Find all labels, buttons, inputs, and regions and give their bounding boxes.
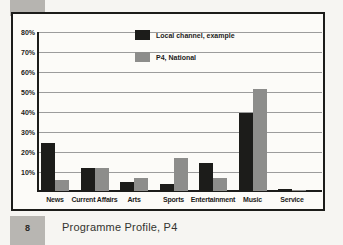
gridline-60 — [38, 72, 322, 73]
y-axis-tick-label: 30% — [13, 128, 35, 137]
bar-local — [199, 163, 213, 191]
bar-national — [292, 190, 306, 191]
plot-area: Local channel, exampleP4, National 10%20… — [13, 14, 323, 209]
y-axis-line — [37, 32, 39, 192]
bar-national — [134, 178, 148, 191]
bar-local — [278, 189, 292, 191]
chart-legend: Local channel, exampleP4, National — [135, 30, 235, 62]
bar-national — [213, 178, 227, 191]
figure-number: 8 — [25, 223, 30, 233]
bar-local — [239, 113, 253, 191]
y-axis-tick-label: 60% — [13, 68, 35, 77]
page-root: Local channel, exampleP4, National 10%20… — [0, 0, 343, 245]
gridline-50 — [38, 92, 322, 93]
gridline-40 — [38, 112, 322, 113]
legend-item: P4, National — [135, 52, 235, 62]
y-axis-tick-label: 70% — [13, 48, 35, 57]
figure-caption: Programme Profile, P4 — [62, 221, 177, 233]
figure-number-badge: 8 — [10, 216, 45, 245]
bar-national — [174, 158, 188, 191]
gridline-30 — [38, 132, 322, 133]
legend-swatch-icon — [135, 52, 150, 62]
y-axis-tick-label: 50% — [13, 88, 35, 97]
legend-label: P4, National — [156, 54, 196, 61]
legend-item: Local channel, example — [135, 30, 235, 40]
legend-label: Local channel, example — [156, 32, 235, 39]
bar-national — [95, 168, 109, 191]
bar-local — [81, 168, 95, 191]
legend-swatch-icon — [135, 30, 150, 40]
gridline-20 — [38, 152, 322, 153]
bar-national — [253, 89, 267, 191]
y-axis-tick-label: 80% — [13, 28, 35, 37]
x-axis-label: Service — [260, 196, 324, 203]
y-axis-tick-label: 40% — [13, 108, 35, 117]
bar-national — [55, 180, 69, 191]
chart-panel: Local channel, exampleP4, National 10%20… — [11, 12, 325, 211]
bar-local — [41, 143, 55, 191]
bar-local — [120, 182, 134, 191]
y-axis-tick-label: 20% — [13, 148, 35, 157]
y-axis-tick-label: 10% — [13, 168, 35, 177]
bar-local — [160, 184, 174, 191]
